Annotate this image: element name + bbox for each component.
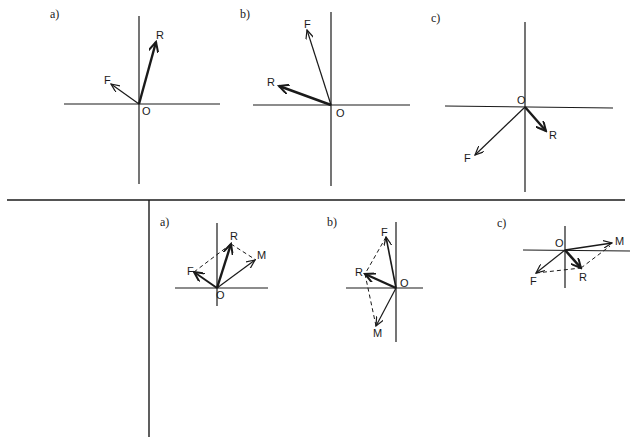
vector-label-f: F (304, 18, 311, 30)
panel-label: c) (497, 216, 506, 230)
vector-label-f: F (530, 275, 537, 287)
x-axis (523, 250, 630, 251)
x-axis (445, 106, 613, 108)
dashed-construction-line (231, 244, 256, 260)
dashed-construction-line (536, 268, 581, 273)
vector-label-f: F (104, 74, 111, 86)
vector-label-m: M (615, 235, 624, 247)
vector-diagram-figure: a) R F O b) F R O c) R F O a) (0, 0, 642, 447)
origin-label: O (555, 237, 564, 249)
vector-f (111, 84, 139, 104)
bottom-panel-a: a) R M F O (160, 215, 268, 306)
origin-label: O (400, 277, 409, 289)
bottom-panel-c: c) M R F O (497, 216, 630, 288)
vector-f (536, 250, 565, 273)
vector-r (279, 86, 331, 105)
panel-label: a) (160, 215, 169, 229)
vector-f (475, 107, 525, 155)
origin-label: O (216, 289, 225, 301)
top-panel-b: b) F R O (240, 7, 410, 186)
vector-label-f: F (187, 265, 194, 277)
panel-label: b) (327, 215, 337, 229)
vector-label-f: F (464, 152, 471, 164)
vector-label-r: R (579, 271, 587, 283)
vector-r (217, 244, 231, 288)
vector-label-r: R (549, 129, 557, 141)
vector-label-f: F (381, 226, 388, 238)
top-panel-a: a) R F O (50, 7, 220, 184)
vector-label-r: R (156, 29, 164, 41)
vector-r (565, 250, 581, 268)
origin-label: O (517, 94, 526, 106)
vector-m (565, 243, 612, 250)
vector-m (376, 288, 396, 326)
vector-f (307, 30, 331, 105)
vector-label-m: M (257, 249, 266, 261)
dashed-construction-line (365, 237, 386, 274)
panel-label: b) (240, 7, 250, 21)
dashed-construction-line (365, 274, 376, 326)
top-panel-c: c) R F O (431, 11, 613, 192)
panel-label: c) (431, 11, 440, 25)
bottom-panel-b: b) F R M O (327, 215, 423, 342)
vector-r (525, 107, 546, 131)
vector-label-r: R (267, 76, 275, 88)
vector-f (386, 237, 396, 288)
vector-r (139, 42, 156, 104)
origin-label: O (336, 107, 345, 119)
vector-f (194, 272, 217, 288)
vector-label-m: M (373, 327, 382, 339)
vector-r (365, 274, 396, 288)
panel-label: a) (50, 7, 59, 21)
vector-label-r: R (355, 266, 363, 278)
dashed-construction-line (581, 246, 610, 268)
vector-label-r: R (230, 230, 238, 242)
origin-label: O (142, 105, 151, 117)
